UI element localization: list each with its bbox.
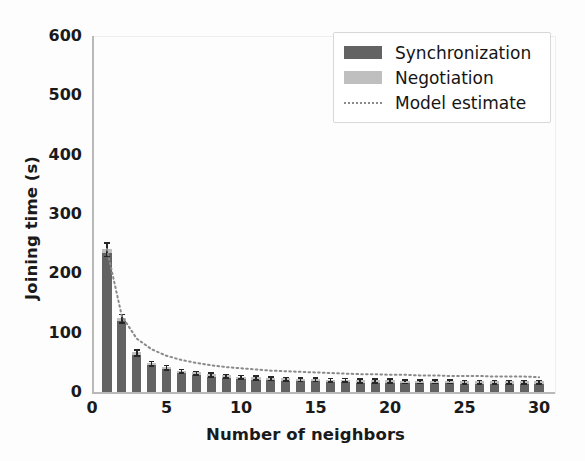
bar: [117, 318, 126, 392]
error-bar-cap: [342, 378, 348, 380]
bar-segment-synchronization: [475, 384, 484, 392]
error-bar-cap: [521, 380, 527, 382]
bar-segment-synchronization: [505, 384, 514, 392]
bar-segment-synchronization: [326, 382, 335, 392]
legend-color-swatch: [344, 71, 382, 84]
error-bar-cap: [283, 380, 289, 382]
error-bar-cap: [357, 382, 363, 384]
error-bar-cap: [417, 383, 423, 385]
x-tick-label: 20: [370, 398, 410, 417]
x-axis-spine: [92, 392, 555, 394]
error-bar-cap: [149, 365, 155, 367]
legend-item[interactable]: Negotiation: [344, 65, 540, 90]
bar-segment-synchronization: [534, 384, 543, 392]
error-bar-cap: [387, 378, 393, 380]
error-bar-cap: [417, 379, 423, 381]
x-tick-label: 30: [519, 398, 559, 417]
error-bar-cap: [521, 383, 527, 385]
x-axis-label: Number of neighbors: [206, 425, 405, 444]
bar-segment-synchronization: [341, 382, 350, 392]
bar-segment-synchronization: [385, 383, 394, 392]
legend-item[interactable]: Model estimate: [344, 90, 540, 115]
error-bar-cap: [179, 372, 185, 374]
error-bar-cap: [193, 371, 199, 373]
bar-segment-synchronization: [117, 321, 126, 392]
error-bar-cap: [372, 378, 378, 380]
bar-segment-synchronization: [192, 375, 201, 392]
bar-segment-synchronization: [430, 383, 439, 392]
bar-segment-synchronization: [400, 383, 409, 392]
x-tick-label: 10: [221, 398, 261, 417]
error-bar-cap: [238, 375, 244, 377]
bar-segment-synchronization: [311, 381, 320, 392]
bar-segment-synchronization: [251, 380, 260, 392]
bar-segment-synchronization: [147, 365, 156, 392]
error-bar-cap: [506, 380, 512, 382]
error-bar-cap: [104, 256, 110, 258]
error-bar-cap: [268, 380, 274, 382]
bar-segment-synchronization: [520, 384, 529, 392]
error-bar-cap: [104, 242, 110, 244]
error-bar-cap: [223, 374, 229, 376]
bar-segment-synchronization: [415, 383, 424, 392]
error-bar-cap: [253, 375, 259, 377]
legend-color-swatch: [344, 46, 382, 59]
y-tick-label: 100: [32, 323, 82, 342]
error-bar-cap: [506, 383, 512, 385]
error-bar-cap: [298, 377, 304, 379]
y-tick-label: 600: [32, 26, 82, 45]
bar: [132, 352, 141, 392]
error-bar-cap: [536, 383, 542, 385]
error-bar-cap: [447, 379, 453, 381]
bar-segment-synchronization: [445, 383, 454, 392]
error-bar-cap: [402, 379, 408, 381]
bar-segment-synchronization: [207, 377, 216, 392]
error-bar-cap: [193, 374, 199, 376]
legend-label: Model estimate: [395, 93, 526, 113]
error-bar-cap: [387, 382, 393, 384]
bar: [102, 249, 111, 392]
bar-segment-synchronization: [102, 253, 111, 392]
legend-line-marker: [344, 96, 382, 109]
error-bar-cap: [372, 382, 378, 384]
legend-item[interactable]: Synchronization: [344, 40, 540, 65]
error-bar: [106, 242, 108, 255]
error-bar-cap: [179, 369, 185, 371]
error-bar-cap: [447, 383, 453, 385]
error-bar-cap: [164, 369, 170, 371]
x-tick-label: 0: [72, 398, 112, 417]
bar-segment-synchronization: [371, 383, 380, 392]
legend-label: Synchronization: [395, 43, 531, 63]
error-bar-cap: [119, 314, 125, 316]
bar-segment-synchronization: [460, 384, 469, 392]
bar-segment-synchronization: [177, 373, 186, 392]
chart-figure: Joining time (s) Number of neighbors 010…: [0, 0, 585, 461]
x-tick-label: 25: [445, 398, 485, 417]
error-bar-cap: [492, 383, 498, 385]
bar-segment-synchronization: [162, 369, 171, 392]
error-bar-cap: [238, 378, 244, 380]
bar: [147, 363, 156, 392]
bar-segment-synchronization: [490, 384, 499, 392]
y-tick-label: 400: [32, 145, 82, 164]
chart-legend[interactable]: SynchronizationNegotiationModel estimate: [333, 32, 551, 123]
bar-segment-synchronization: [281, 381, 290, 392]
legend-label: Negotiation: [395, 68, 494, 88]
error-bar-cap: [328, 378, 334, 380]
error-bar-cap: [298, 381, 304, 383]
error-bar-cap: [342, 381, 348, 383]
error-bar-cap: [492, 380, 498, 382]
error-bar-cap: [357, 378, 363, 380]
x-tick-label: 15: [296, 398, 336, 417]
error-bar-cap: [477, 380, 483, 382]
error-bar-cap: [536, 380, 542, 382]
x-tick-label: 5: [147, 398, 187, 417]
error-bar-cap: [328, 381, 334, 383]
y-tick-label: 500: [32, 85, 82, 104]
error-bar-cap: [432, 379, 438, 381]
error-bar-cap: [462, 380, 468, 382]
error-bar-cap: [208, 376, 214, 378]
error-bar-cap: [313, 377, 319, 379]
bar-segment-synchronization: [266, 380, 275, 392]
error-bar-cap: [268, 376, 274, 378]
